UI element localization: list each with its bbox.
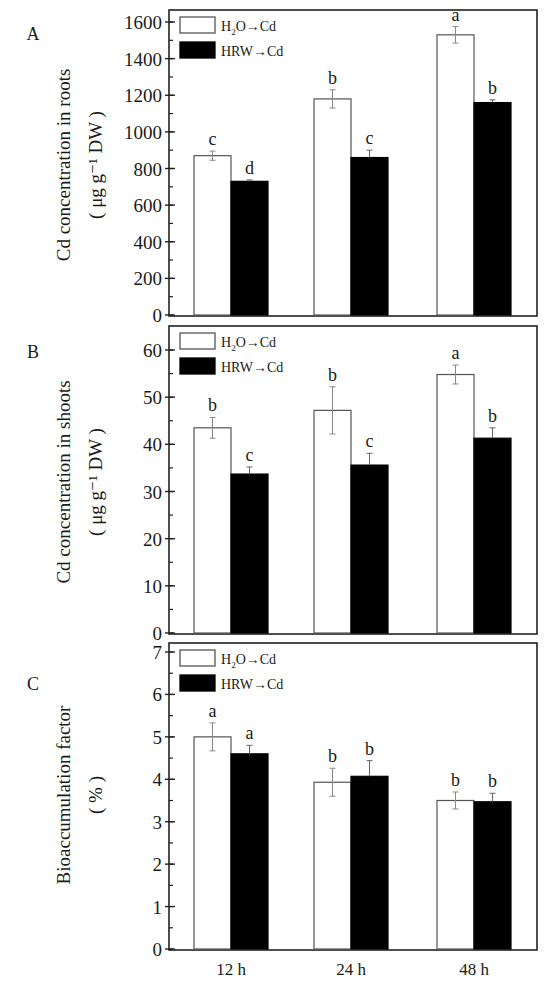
y-tick-label: 20 <box>143 529 162 550</box>
significance-letter: b <box>328 68 337 88</box>
x-category-label-48h: 48 h <box>459 960 489 979</box>
y-tick-label: 1400 <box>124 49 162 70</box>
bar-hrw-48h <box>474 103 511 315</box>
bar-hrw-24h <box>351 158 388 315</box>
bar-hrw-48h <box>474 438 511 633</box>
legend-label-hrw: HRW→Cd <box>221 360 283 375</box>
bar-h2o-12h <box>194 156 231 315</box>
significance-letter: b <box>208 395 217 415</box>
y-tick-label: 5 <box>153 727 163 748</box>
legend-label-h2o: H2O→Cd <box>221 19 276 37</box>
legend: H2O→CdHRW→Cd <box>180 650 283 692</box>
legend-swatch-h2o <box>180 333 215 349</box>
significance-letter: b <box>488 78 497 98</box>
bar-h2o-12h <box>194 737 231 949</box>
y-tick-label: 4 <box>153 769 163 790</box>
y-axis-unit: ( % ) <box>85 776 107 814</box>
y-axis-title: Cd concentration in roots <box>53 69 74 262</box>
y-axis-title: Cd concentration in shoots <box>53 380 74 583</box>
significance-letter: c <box>246 445 254 465</box>
y-tick-label: 1200 <box>124 85 162 106</box>
significance-letter: b <box>328 365 337 385</box>
significance-letter: b <box>365 739 374 759</box>
significance-letter: d <box>245 158 254 178</box>
legend-label-h2o: H2O→Cd <box>221 652 276 670</box>
figure: ACd concentration in roots( μg g⁻¹ DW )0… <box>0 0 550 981</box>
bar-hrw-24h <box>351 776 388 949</box>
legend-label-hrw: HRW→Cd <box>221 677 283 692</box>
panel-a: ACd concentration in roots( μg g⁻¹ DW )0… <box>27 5 538 326</box>
bar-h2o-24h <box>314 782 351 949</box>
y-tick-label: 0 <box>153 939 163 960</box>
legend-swatch-h2o <box>180 17 215 33</box>
bar-h2o-48h <box>437 801 474 950</box>
legend-swatch-hrw <box>180 675 215 691</box>
legend-label-h2o: H2O→Cd <box>221 335 276 353</box>
bar-h2o-12h <box>194 428 231 633</box>
y-tick-label: 400 <box>134 232 163 253</box>
panel-c: CBioaccumulation factor( % )01234567abba… <box>27 642 537 960</box>
y-tick-label: 800 <box>134 159 163 180</box>
y-tick-label: 200 <box>134 268 163 289</box>
significance-letter: c <box>366 128 374 148</box>
y-tick-label: 2 <box>153 854 163 875</box>
y-tick-label: 600 <box>134 195 163 216</box>
panel-letter: A <box>27 24 40 44</box>
bar-hrw-12h <box>231 754 268 949</box>
bar-h2o-24h <box>314 99 351 315</box>
y-tick-label: 1 <box>153 897 163 918</box>
significance-letter: b <box>451 770 460 790</box>
legend: H2O→CdHRW→Cd <box>180 333 283 375</box>
significance-letter: b <box>488 771 497 791</box>
significance-letter: c <box>209 129 217 149</box>
y-tick-label: 7 <box>153 642 163 663</box>
y-tick-label: 0 <box>153 623 163 644</box>
y-axis-title: Bioaccumulation factor <box>53 705 74 885</box>
significance-letter: c <box>366 431 374 451</box>
bar-h2o-48h <box>437 375 474 633</box>
y-tick-label: 6 <box>153 684 163 705</box>
y-tick-label: 50 <box>143 387 162 408</box>
panel-letter: C <box>27 674 39 694</box>
x-category-labels: 12 h 24 h 48 h <box>216 960 489 979</box>
panel-b: BCd concentration in shoots( μg g⁻¹ DW )… <box>27 326 537 644</box>
legend: H2O→CdHRW→Cd <box>180 17 283 59</box>
legend-swatch-hrw <box>180 358 215 374</box>
y-tick-label: 40 <box>143 434 162 455</box>
y-tick-label: 0 <box>153 305 163 326</box>
y-tick-label: 1000 <box>124 122 162 143</box>
y-tick-label: 10 <box>143 576 162 597</box>
significance-letter: a <box>209 701 217 721</box>
y-tick-label: 3 <box>153 812 163 833</box>
x-category-label-12h: 12 h <box>216 960 246 979</box>
legend-swatch-h2o <box>180 650 215 666</box>
x-category-label-24h: 24 h <box>336 960 366 979</box>
bar-h2o-24h <box>314 410 351 633</box>
panel-letter: B <box>27 342 39 362</box>
significance-letter: a <box>452 5 460 25</box>
bar-hrw-12h <box>231 181 268 315</box>
bar-h2o-48h <box>437 35 474 315</box>
y-tick-label: 60 <box>143 340 162 361</box>
y-axis-unit: ( μg g⁻¹ DW ) <box>85 111 107 219</box>
y-tick-label: 1600 <box>124 12 162 33</box>
bar-hrw-12h <box>231 474 268 633</box>
significance-letter: a <box>452 343 460 363</box>
y-tick-label: 30 <box>143 482 162 503</box>
legend-label-hrw: HRW→Cd <box>221 44 283 59</box>
bar-hrw-48h <box>474 802 511 949</box>
bar-hrw-24h <box>351 465 388 633</box>
legend-swatch-hrw <box>180 42 215 58</box>
significance-letter: a <box>246 723 254 743</box>
y-axis-unit: ( μg g⁻¹ DW ) <box>85 428 107 536</box>
significance-letter: b <box>328 746 337 766</box>
significance-letter: b <box>488 406 497 426</box>
